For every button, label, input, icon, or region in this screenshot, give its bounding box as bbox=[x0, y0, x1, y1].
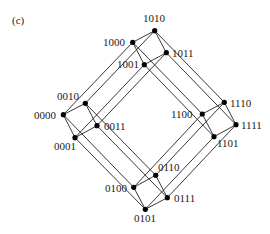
node-label-0111: 0111 bbox=[174, 192, 195, 204]
edge-0000-1000 bbox=[63, 42, 132, 114]
node-label-1111: 1111 bbox=[241, 119, 262, 131]
node-label-1010: 1010 bbox=[143, 12, 166, 24]
edge-1010-1110 bbox=[155, 31, 225, 103]
label-layer: 0000001000010011100010101001101101000110… bbox=[34, 12, 262, 224]
node-0011 bbox=[94, 123, 99, 128]
edge-1101-1111 bbox=[214, 125, 236, 137]
node-1011 bbox=[164, 50, 169, 55]
edge-0001-0011 bbox=[75, 126, 97, 138]
node-1001 bbox=[142, 62, 147, 67]
edge-layer bbox=[63, 31, 236, 210]
node-label-0110: 0110 bbox=[158, 161, 180, 173]
node-0110 bbox=[153, 173, 158, 178]
edge-0000-0001 bbox=[63, 115, 75, 138]
node-label-1110: 1110 bbox=[230, 97, 252, 109]
node-label-0000: 0000 bbox=[34, 109, 57, 121]
node-label-0001: 0001 bbox=[54, 140, 76, 152]
edge-0101-0111 bbox=[145, 198, 167, 210]
node-label-1101: 1101 bbox=[217, 137, 239, 149]
edge-1010-1011 bbox=[155, 31, 167, 53]
node-label-0010: 0010 bbox=[57, 90, 80, 102]
hypercube-diagram: (c) 000000100001001110001010100110110100… bbox=[0, 0, 270, 234]
edge-0110-0111 bbox=[156, 175, 168, 197]
node-label-0011: 0011 bbox=[104, 120, 126, 132]
node-label-0101: 0101 bbox=[134, 212, 156, 224]
edge-1100-1110 bbox=[202, 102, 224, 114]
node-0111 bbox=[165, 195, 170, 200]
edge-0100-1100 bbox=[134, 114, 203, 187]
node-0010 bbox=[83, 101, 88, 106]
node-label-1100: 1100 bbox=[171, 108, 193, 120]
node-label-1001: 1001 bbox=[117, 58, 139, 70]
edge-1001-1011 bbox=[144, 53, 166, 65]
node-1100 bbox=[200, 111, 205, 116]
node-label-0100: 0100 bbox=[105, 182, 128, 194]
edge-0001-0101 bbox=[75, 138, 145, 210]
edge-0100-0110 bbox=[134, 175, 156, 187]
edge-0000-0010 bbox=[63, 103, 85, 114]
node-0000 bbox=[61, 112, 66, 117]
edge-1001-1101 bbox=[144, 65, 214, 137]
edge-0010-0011 bbox=[85, 103, 97, 125]
node-0100 bbox=[131, 185, 136, 190]
node-label-1000: 1000 bbox=[103, 36, 126, 48]
node-1101 bbox=[211, 134, 216, 139]
node-layer bbox=[61, 28, 239, 212]
edge-1100-1101 bbox=[202, 114, 214, 137]
panel-label: (c) bbox=[12, 14, 25, 27]
node-label-1011: 1011 bbox=[172, 47, 194, 59]
edge-0010-0110 bbox=[85, 103, 155, 175]
edge-1000-1010 bbox=[133, 31, 155, 43]
node-1000 bbox=[130, 40, 135, 45]
node-1111 bbox=[233, 122, 238, 127]
node-1010 bbox=[152, 28, 157, 33]
edge-0100-0101 bbox=[134, 187, 146, 209]
node-1110 bbox=[222, 100, 227, 105]
